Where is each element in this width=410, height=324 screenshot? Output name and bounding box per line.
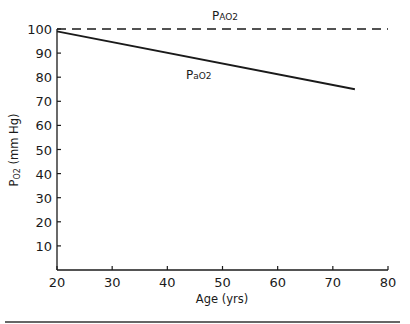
y-tick-label: 30 [35, 191, 52, 206]
y-tick-label: 90 [35, 46, 52, 61]
x-tick-label: 80 [380, 275, 397, 290]
series-label-PaO2: PaO2 [186, 68, 212, 82]
y-tick-label: 10 [35, 239, 52, 254]
series [57, 29, 388, 89]
series-label-PAO2: PAO2 [212, 9, 238, 23]
y-tick-label: 50 [35, 143, 52, 158]
chart: 102030405060708090100 20304050607080 Age… [0, 0, 410, 324]
x-tick-label: 30 [104, 275, 121, 290]
x-axis-label: Age (yrs) [196, 292, 248, 306]
y-tick-label: 60 [35, 118, 52, 133]
y-ticks: 102030405060708090100 [27, 22, 61, 254]
x-tick-label: 20 [49, 275, 66, 290]
y-tick-label: 80 [35, 70, 52, 85]
y-tick-label: 20 [35, 215, 52, 230]
y-tick-label: 70 [35, 94, 52, 109]
y-tick-label: 40 [35, 167, 52, 182]
x-tick-label: 40 [159, 275, 176, 290]
x-tick-label: 70 [325, 275, 342, 290]
y-tick-label: 100 [27, 22, 52, 37]
axes [57, 29, 388, 270]
x-tick-label: 50 [214, 275, 231, 290]
x-tick-label: 60 [269, 275, 286, 290]
y-axis-label: PO2 (mm Hg) [7, 114, 22, 187]
